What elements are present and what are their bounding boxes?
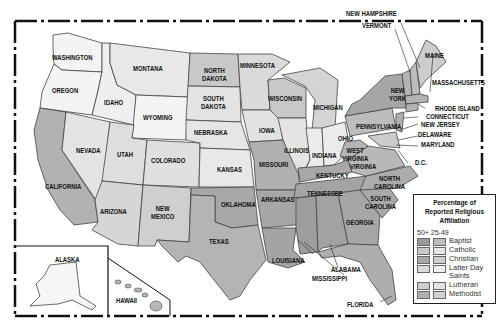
state-connecticut <box>406 103 418 112</box>
label-new-hampshire: NEW HAMPSHIRE <box>346 10 397 18</box>
label-tennessee: TENNESSEE <box>307 190 343 198</box>
label-vermont: VERMONT <box>362 22 391 30</box>
label-texas: TEXAS <box>209 238 229 246</box>
label-new-jersey: NEW JERSEY <box>421 121 460 129</box>
legend-title: Percentage of Reported Religious Affilia… <box>420 198 489 225</box>
label-ohio: OHIO <box>338 135 353 143</box>
label-indiana: INDIANA <box>312 152 337 160</box>
swatch-high-icon <box>417 238 430 246</box>
label-montana: MONTANA <box>133 65 163 73</box>
label-washington: WASHINGTON <box>52 54 93 62</box>
swatch-high-icon <box>417 265 430 273</box>
label-missouri: MISSOURI <box>259 161 288 169</box>
legend-column-header: 50+ 25-49 <box>417 229 495 236</box>
label-illinois: ILLINOIS <box>284 147 309 155</box>
swatch-high-icon <box>417 282 430 290</box>
label-louisiana: LOUISIANA <box>272 257 304 265</box>
label-north-dakota: NORTHDAKOTA <box>202 67 227 83</box>
label-south-dakota: SOUTHDAKOTA <box>201 95 226 111</box>
state-maryland-delaware <box>368 132 400 148</box>
label-alabama: ALABAMA <box>331 266 361 274</box>
swatch-high-icon <box>417 247 430 255</box>
label-north-carolina: NORTHCAROLINA <box>374 175 405 191</box>
swatch-mid-icon <box>433 291 446 299</box>
label-wisconsin: WISCONSIN <box>268 95 302 103</box>
legend-item-catholic: Catholic <box>417 246 495 254</box>
label-maryland: MARYLAND <box>421 141 455 149</box>
label-dc: D.C. <box>415 159 427 167</box>
swatch-mid-icon <box>433 238 446 246</box>
map-legend: Percentage of Reported Religious Affilia… <box>413 194 496 304</box>
label-nevada: NEVADA <box>76 147 100 155</box>
swatch-mid-icon <box>433 282 446 290</box>
label-hawaii: HAWAII <box>116 297 137 305</box>
state-mississippi <box>296 196 318 254</box>
legend-item-christian: Christian <box>417 255 495 263</box>
swatch-mid-icon <box>433 265 446 273</box>
label-kansas: KANSAS <box>217 166 242 174</box>
label-minnesota: MINNESOTA <box>240 62 275 70</box>
swatch-mid-icon <box>433 256 446 264</box>
label-iowa: IOWA <box>259 127 275 135</box>
label-alaska: ALASKA <box>55 256 80 264</box>
legend-item-latter-day-saints: Latter Day Saints <box>417 264 495 280</box>
label-mississippi: MISSISSIPPI <box>312 275 347 283</box>
label-oregon: OREGON <box>52 87 78 95</box>
label-idaho: IDAHO <box>104 99 123 107</box>
swatch-mid-icon <box>433 247 446 255</box>
label-nebraska: NEBRASKA <box>194 129 227 137</box>
label-maine: MAINE <box>425 52 444 60</box>
label-virginia: VIRGINIA <box>350 163 376 171</box>
label-georgia: GEORGIA <box>346 219 374 227</box>
label-new-mexico: NEWMEXICO <box>151 205 174 221</box>
label-west-virginia: WESTVIRGINIA <box>342 147 368 163</box>
label-pennsylvania: PENNSYLVANIA <box>356 123 401 131</box>
state-massachusetts <box>405 94 428 104</box>
label-michigan: MICHIGAN <box>313 104 343 112</box>
state-alaska <box>30 262 96 310</box>
label-massachusetts: MASSACHUSETTS <box>432 79 485 87</box>
legend-item-lutheran: Lutheran <box>417 281 495 289</box>
legend-item-methodist: Methodist <box>417 290 495 298</box>
swatch-high-icon <box>417 291 430 299</box>
label-utah: UTAH <box>117 151 133 159</box>
label-california: CALIFORNIA <box>45 183 81 191</box>
label-kentucky: KENTUCKY <box>316 172 349 180</box>
label-arizona: ARIZONA <box>100 208 127 216</box>
label-arkansas: ARKANSAS <box>261 196 294 204</box>
swatch-high-icon <box>417 256 430 264</box>
label-new-york: NEWYORK <box>389 87 406 103</box>
label-wyoming: WYOMING <box>143 114 172 122</box>
label-south-carolina: SOUTHCAROLINA <box>365 195 396 211</box>
label-delaware: DELAWARE <box>418 131 451 139</box>
label-colorado: COLORADO <box>151 157 185 165</box>
legend-item-baptist: Baptist <box>417 237 495 245</box>
label-florida: FLORIDA <box>347 301 373 309</box>
label-oklahoma: OKLAHOMA <box>221 201 256 209</box>
